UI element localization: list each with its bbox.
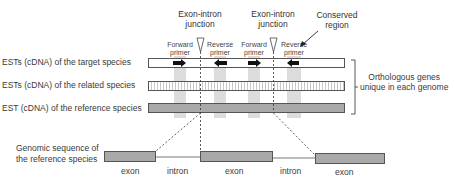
forward-arrow-2-icon xyxy=(248,59,261,67)
orthologous-bracket xyxy=(351,60,355,114)
mapping-line-2 xyxy=(274,113,316,155)
reverse-arrow-1-icon xyxy=(214,59,227,67)
forward-arrow-1-icon xyxy=(173,59,186,67)
junction-triangle-2 xyxy=(270,38,277,52)
junction-triangle-1 xyxy=(197,38,204,52)
diagram-lines xyxy=(0,0,454,182)
reverse-arrow-2-icon xyxy=(287,59,299,67)
mapping-line-1 xyxy=(156,113,201,151)
